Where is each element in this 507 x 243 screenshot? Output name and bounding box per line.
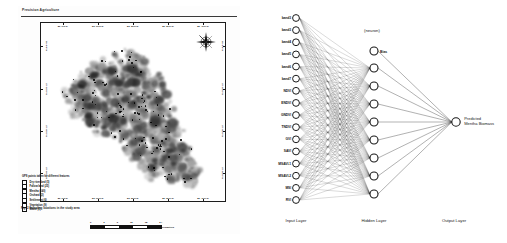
map-y-tick-label: 27°40'0"N xyxy=(45,125,48,137)
legend-label: Fallow land (25) xyxy=(30,185,49,188)
compass-rose-icon xyxy=(195,31,217,53)
layer-label-output: Output Layer xyxy=(442,218,466,223)
input-node xyxy=(293,197,300,204)
map-scale-bar: 0 3 6 12 18 24 Kilometers xyxy=(90,221,162,229)
input-node xyxy=(293,148,300,155)
scale-tick-labels: 0 3 6 12 18 24 xyxy=(90,221,162,224)
input-node-label: GNDVI xyxy=(281,113,291,117)
map-tick-mark xyxy=(41,131,43,132)
bias-label: Bias xyxy=(380,50,387,54)
input-node-label: band3 xyxy=(282,16,291,20)
input-node xyxy=(293,172,300,179)
map-tick-mark xyxy=(133,199,134,201)
ann-architecture-diagram: (neuron) Bias PredictedMentha Biomass ba… xyxy=(248,4,503,240)
map-tick-mark xyxy=(203,23,204,25)
input-node xyxy=(293,184,300,191)
scale-tick: 12 xyxy=(130,221,133,224)
input-node-label: NDVI xyxy=(283,89,291,93)
input-node-label: ENDVI xyxy=(281,101,291,105)
input-node xyxy=(293,15,300,22)
input-node-label: band7 xyxy=(282,77,291,81)
input-node xyxy=(293,112,300,119)
map-tick-mark xyxy=(168,23,169,25)
bias-node xyxy=(370,47,378,55)
map-tick-mark xyxy=(223,46,225,47)
input-node-label: MSAVI-1 xyxy=(278,162,291,166)
scale-tick: 6 xyxy=(117,221,118,224)
legend-label: Mentha (140) xyxy=(30,190,46,193)
map-tick-mark xyxy=(203,199,204,201)
scale-bar-blocks xyxy=(90,225,162,229)
map-tick-mark xyxy=(63,23,64,25)
hidden-node xyxy=(370,100,378,108)
input-node xyxy=(293,124,300,131)
map-tick-mark xyxy=(98,23,99,25)
input-node xyxy=(293,87,300,94)
input-node xyxy=(293,160,300,167)
input-node-label: TNDVI xyxy=(281,125,291,129)
legend-label: Dry river bed (5) xyxy=(30,181,50,184)
scale-tick: 24 xyxy=(159,221,162,224)
input-node xyxy=(293,27,300,34)
figure-page: Precision Agriculture xyxy=(0,0,507,243)
layer-label-hidden: Hidden Layer xyxy=(362,218,387,223)
scale-tick: 0 xyxy=(90,221,91,224)
input-node-label: band4 xyxy=(282,40,291,44)
hidden-node xyxy=(370,118,378,126)
hidden-node xyxy=(370,190,378,198)
map-tick-mark xyxy=(223,89,225,90)
hidden-node xyxy=(370,64,378,72)
map-tick-mark xyxy=(41,89,43,90)
header-rule xyxy=(21,16,237,17)
running-head: Precision Agriculture xyxy=(22,8,59,12)
map-tick-mark xyxy=(223,173,225,174)
classified-landmass xyxy=(56,41,211,194)
input-node-label: band3 xyxy=(282,28,291,32)
map-tick-mark xyxy=(41,46,43,47)
output-node-label: PredictedMentha Biomass xyxy=(464,116,494,126)
journal-page-fragment: Precision Agriculture xyxy=(18,6,240,234)
input-node-label: band6 xyxy=(282,65,291,69)
map-tick-mark xyxy=(168,199,169,201)
legend-label: Settlement (6) xyxy=(30,199,47,202)
scale-tick: 18 xyxy=(145,221,148,224)
legend-label: Orchard (2) xyxy=(30,194,44,197)
input-node-label: GVI xyxy=(286,137,292,141)
hidden-node xyxy=(370,154,378,162)
input-node-label: RVI xyxy=(286,198,291,202)
figure-caption: Fig. 2 Sampling locations in the study a… xyxy=(21,206,80,210)
map-tick-mark xyxy=(41,173,43,174)
map-tick-mark xyxy=(133,23,134,25)
output-node xyxy=(452,118,460,126)
neuron-note-label: (neuron) xyxy=(364,28,380,33)
layer-label-input: Input Layer xyxy=(286,218,307,223)
hidden-node xyxy=(370,172,378,180)
input-node-label: MSAVI-2 xyxy=(278,174,291,178)
map-y-tick-label: 28°0'0"N xyxy=(45,41,48,51)
map-tick-mark xyxy=(223,131,225,132)
input-node xyxy=(293,75,300,82)
hidden-node xyxy=(370,82,378,90)
input-node xyxy=(293,39,300,46)
output-label-line2: Mentha Biomass xyxy=(464,121,494,126)
hidden-node xyxy=(370,136,378,144)
legend-title: GPS points taken for different features xyxy=(22,175,100,178)
input-node xyxy=(293,63,300,70)
scale-tick: 3 xyxy=(103,221,104,224)
input-node-label: SAVI xyxy=(284,149,291,153)
input-node xyxy=(293,51,300,58)
map-y-tick-label: 27°50'0"N xyxy=(45,83,48,95)
input-node xyxy=(293,136,300,143)
input-node-label: band5 xyxy=(282,52,291,56)
input-node-label: MSI xyxy=(285,186,291,190)
scale-unit-label: Kilometers xyxy=(162,226,174,229)
input-node xyxy=(293,100,300,107)
